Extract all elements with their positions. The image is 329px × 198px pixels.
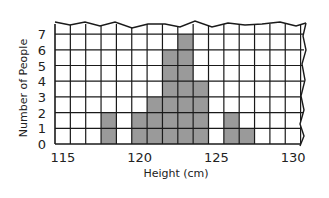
histogram-chart: 01234567 115120125130 Number of People H… [0,0,329,198]
x-axis-ticks: 115120125130 [51,150,306,165]
bar-121 [147,97,162,144]
y-tick-6: 6 [38,43,46,58]
bar-127 [239,128,254,144]
y-tick-5: 5 [38,59,46,74]
bar-123 [178,34,193,144]
x-tick-125: 125 [204,150,229,165]
y-axis-ticks: 01234567 [38,27,46,152]
x-tick-130: 130 [281,150,306,165]
y-tick-7: 7 [38,27,46,42]
y-tick-3: 3 [38,90,46,105]
y-tick-1: 1 [38,121,46,136]
x-tick-120: 120 [127,150,152,165]
y-tick-0: 0 [38,137,46,152]
x-axis-label: Height (cm) [143,167,208,180]
x-tick-115: 115 [51,150,76,165]
y-axis-label: Number of People [17,39,30,138]
y-tick-4: 4 [38,74,46,89]
y-tick-2: 2 [38,106,46,121]
